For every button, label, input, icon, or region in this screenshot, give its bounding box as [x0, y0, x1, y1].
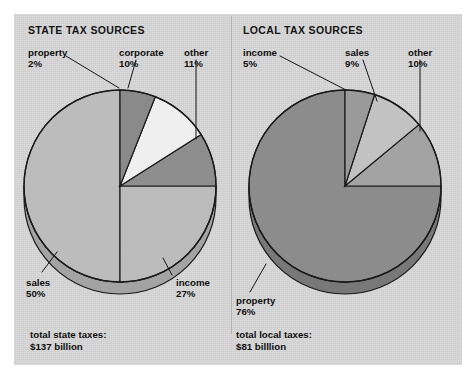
- state-label-sales-name: sales: [26, 277, 50, 288]
- local-total-label: total local taxes:: [236, 329, 312, 340]
- local-label-property: property 76%: [236, 295, 275, 317]
- state-total-label: total state taxes:: [30, 329, 106, 340]
- state-label-income: income 27%: [176, 277, 210, 299]
- state-slice-sales: [24, 90, 120, 282]
- state-label-corporate-name: corporate: [119, 47, 164, 58]
- state-chart-title: STATE TAX SOURCES: [28, 24, 145, 36]
- local-label-income-pct: 5%: [243, 58, 277, 69]
- state-label-income-name: income: [176, 277, 210, 288]
- tax-sources-figure: STATE TAX SOURCES property 2% corporate …: [0, 0, 476, 379]
- state-label-income-pct: 27%: [176, 288, 210, 299]
- state-label-other-name: other: [184, 47, 208, 58]
- local-label-sales: sales 9%: [345, 47, 369, 69]
- local-total: total local taxes: $81 billlion: [236, 329, 312, 352]
- panel-divider: [231, 16, 232, 334]
- state-label-other: other 11%: [184, 47, 208, 69]
- local-chart-title: LOCAL TAX SOURCES: [243, 24, 363, 36]
- state-label-sales-pct: 50%: [26, 288, 50, 299]
- local-label-other-pct: 10%: [408, 58, 432, 69]
- state-pie-chart: [20, 74, 220, 284]
- local-label-property-name: property: [236, 295, 275, 306]
- local-pie-chart: [245, 74, 445, 284]
- state-label-property: property 2%: [28, 47, 67, 69]
- local-label-other: other 10%: [408, 47, 432, 69]
- state-slice-income: [120, 186, 216, 282]
- state-total: total state taxes: $137 billion: [30, 329, 106, 352]
- local-label-sales-pct: 9%: [345, 58, 369, 69]
- local-label-other-name: other: [408, 47, 432, 58]
- state-total-value: $137 billion: [30, 341, 83, 352]
- local-label-sales-name: sales: [345, 47, 369, 58]
- state-label-corporate: corporate 10%: [119, 47, 164, 69]
- local-label-income-name: income: [243, 47, 277, 58]
- state-label-property-name: property: [28, 47, 67, 58]
- local-label-income: income 5%: [243, 47, 277, 69]
- state-label-sales: sales 50%: [26, 277, 50, 299]
- local-label-property-pct: 76%: [236, 306, 275, 317]
- local-total-value: $81 billlion: [236, 341, 286, 352]
- state-label-property-pct: 2%: [28, 58, 67, 69]
- state-label-corporate-pct: 10%: [119, 58, 164, 69]
- state-label-other-pct: 11%: [184, 58, 208, 69]
